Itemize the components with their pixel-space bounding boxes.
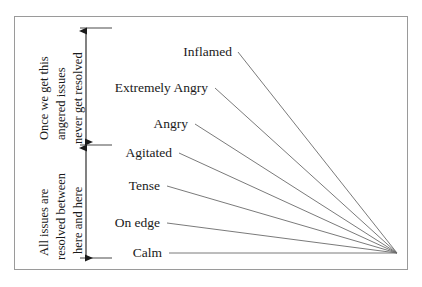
upper-range-annotation-line-1: Once we get this xyxy=(38,56,51,140)
lower-range-annotation-line-2: resolved between xyxy=(55,173,68,260)
emotion-label-extremely-angry: Extremely Angry xyxy=(0,81,208,95)
upper-range-annotation-line-3: never get resolved xyxy=(72,52,85,144)
level-ray-angry xyxy=(195,124,397,253)
level-ray-agitated xyxy=(179,153,397,253)
level-ray-inflamed xyxy=(238,52,397,253)
upper-range-annotation-line-2: angered issues xyxy=(55,67,68,140)
lower-range-annotation-line-1: All issues are xyxy=(38,189,51,256)
emotion-label-agitated: Agitated xyxy=(0,146,172,160)
diagram-canvas: InflamedExtremely AngryAngryAgitatedTens… xyxy=(0,0,422,287)
level-ray-extremely-angry xyxy=(215,88,397,253)
lower-range-annotation-line-3: here and here xyxy=(72,187,85,254)
emotion-label-angry: Angry xyxy=(0,117,188,131)
level-ray-tense xyxy=(167,186,397,253)
level-ray-on-edge xyxy=(167,223,397,253)
